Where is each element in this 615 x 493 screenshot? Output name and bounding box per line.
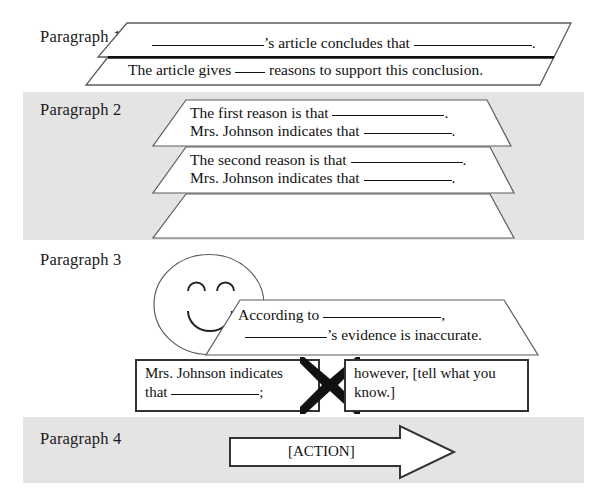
paragraph-2-line-1a: The first reason is that . bbox=[190, 104, 448, 122]
left-box-line-2: that ; bbox=[145, 383, 315, 402]
blank-field[interactable] bbox=[364, 180, 452, 181]
left-box-line-1: Mrs. Johnson indicates bbox=[145, 364, 315, 383]
blank-field[interactable] bbox=[364, 133, 452, 134]
paragraph-2-line-1b: Mrs. Johnson indicates that . bbox=[190, 122, 455, 140]
blank-field[interactable] bbox=[332, 115, 444, 116]
p2b-line1-end: . bbox=[463, 151, 467, 168]
p2b-line1-text: The second reason is that bbox=[190, 151, 347, 168]
paragraph-4-label: Paragraph 4 bbox=[40, 429, 121, 449]
action-arrow-label: [ACTION] bbox=[288, 443, 355, 460]
left-box-line-2-text: that bbox=[145, 384, 168, 400]
blank-field[interactable] bbox=[414, 45, 532, 46]
p1-line2-text-a: The article gives bbox=[128, 61, 231, 78]
p3-line1-text: According to bbox=[238, 306, 319, 323]
blank-field[interactable] bbox=[171, 394, 259, 395]
paragraph-3-right-box-text: however, [tell what you know.] bbox=[354, 364, 526, 402]
paragraph-1-line-1: ’s article concludes that . bbox=[152, 34, 536, 52]
paragraph-3-line-1: According to , bbox=[238, 306, 445, 324]
worksheet-page: Paragraph 1 ’s article concludes that . … bbox=[0, 0, 615, 493]
left-box-line-2-end: ; bbox=[259, 384, 263, 400]
paragraph-3-line-2: ’s evidence is inaccurate. bbox=[245, 326, 482, 344]
p2b-line2-end: . bbox=[452, 169, 456, 186]
paragraph-3-label: Paragraph 3 bbox=[40, 250, 121, 270]
p2b-line2-text: Mrs. Johnson indicates that bbox=[190, 169, 360, 186]
blank-field[interactable] bbox=[323, 317, 441, 318]
p3-line1-end: , bbox=[441, 306, 445, 323]
p2a-line1-end: . bbox=[444, 104, 448, 121]
paragraph-1-line-2: The article gives reasons to support thi… bbox=[128, 61, 483, 79]
paragraph-2-line-2b: Mrs. Johnson indicates that . bbox=[190, 169, 455, 187]
p1-line1-text-a: ’s article concludes that bbox=[264, 34, 410, 51]
blank-field[interactable] bbox=[351, 162, 463, 163]
blank-field[interactable] bbox=[235, 72, 265, 73]
p1-line1-text-b: . bbox=[532, 34, 536, 51]
right-box-line-2: know.] bbox=[354, 383, 526, 402]
paragraph-2-trapezoid-3 bbox=[152, 193, 517, 239]
p1-line2-text-b: reasons to support this conclusion. bbox=[269, 61, 483, 78]
p3-line2-end: ’s evidence is inaccurate. bbox=[327, 326, 482, 343]
p2a-line2-end: . bbox=[452, 122, 456, 139]
paragraph-3-left-box-text: Mrs. Johnson indicates that ; bbox=[145, 364, 315, 402]
p2a-line1-text: The first reason is that bbox=[190, 104, 329, 121]
right-box-line-1: however, [tell what you bbox=[354, 364, 526, 383]
p2a-line2-text: Mrs. Johnson indicates that bbox=[190, 122, 360, 139]
paragraph-2-line-2a: The second reason is that . bbox=[190, 151, 466, 169]
blank-field[interactable] bbox=[152, 45, 264, 46]
paragraph-2-label: Paragraph 2 bbox=[40, 100, 121, 120]
blank-field[interactable] bbox=[245, 337, 327, 338]
